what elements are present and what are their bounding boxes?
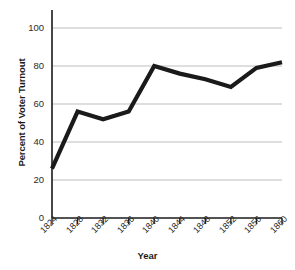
data-series-line — [52, 62, 282, 168]
y-tick-label: 40 — [10, 136, 44, 147]
y-tick-label: 20 — [10, 174, 44, 185]
y-tick-label: 80 — [10, 60, 44, 71]
y-tick-label: 0 — [10, 212, 44, 223]
voter-turnout-line-chart: Percent of Voter Turnout 020406080100 18… — [0, 0, 295, 270]
y-tick-label: 100 — [10, 22, 44, 33]
gridlines — [52, 28, 282, 180]
y-tick-label: 60 — [10, 98, 44, 109]
x-axis-label: Year — [0, 250, 295, 261]
